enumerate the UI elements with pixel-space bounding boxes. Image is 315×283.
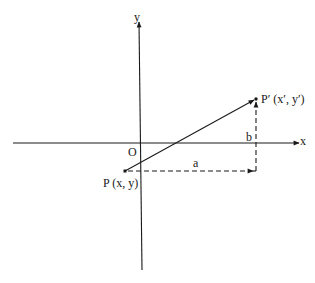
translation-vector xyxy=(125,100,254,171)
point-p-prime xyxy=(254,97,257,100)
y-axis xyxy=(139,22,142,270)
point-p-label: P (x, y) xyxy=(103,177,138,189)
point-p xyxy=(124,170,127,173)
component-b-label: b xyxy=(246,131,252,143)
x-axis-label: x xyxy=(300,135,306,147)
translation-diagram: y x O P (x, y) P′ (x′, y′) a b xyxy=(0,0,315,283)
origin-label: O xyxy=(128,146,137,158)
point-p-prime-label: P′ (x′, y′) xyxy=(261,93,305,105)
component-a-label: a xyxy=(193,157,198,169)
diagram-canvas xyxy=(0,0,315,283)
y-axis-label: y xyxy=(134,11,140,23)
